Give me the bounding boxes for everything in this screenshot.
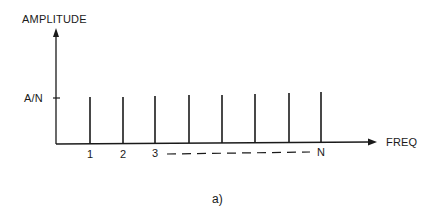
x-axis [56,142,370,144]
continuation-dashes [167,152,310,154]
x-axis-label: FREQ [386,137,417,148]
x-tick-label-1: 1 [87,149,93,160]
y-axis-label: AMPLITUDE [22,14,87,25]
y-axis-arrow-icon [53,28,59,37]
figure-caption: a) [212,193,223,205]
spectrum-diagram [0,0,439,220]
x-tick-label-2: 2 [120,149,126,160]
spectral-lines [90,92,321,144]
x-axis-arrow-icon [368,139,377,146]
x-tick-label-n: N [317,147,325,158]
x-tick-label-3: 3 [152,148,158,159]
y-tick-label: A/N [24,93,43,104]
